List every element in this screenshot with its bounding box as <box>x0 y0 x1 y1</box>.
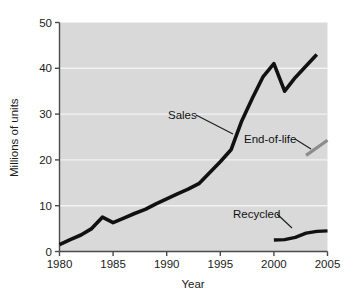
chart-canvas: 01020304050 198019851990199520002005 Sal… <box>0 0 351 295</box>
annotation-label: End-of-life <box>244 133 296 145</box>
x-tick-label: 2000 <box>261 258 287 270</box>
annotation-label: Sales <box>168 109 197 121</box>
x-tick-label: 1980 <box>47 258 73 270</box>
x-axis-title: Year <box>181 278 204 290</box>
y-tick-label: 20 <box>39 154 52 166</box>
y-tick-label: 50 <box>39 17 52 29</box>
y-tick-label: 0 <box>46 246 52 258</box>
y-tick-label: 40 <box>39 62 52 74</box>
y-tick-label: 10 <box>39 200 52 212</box>
x-tick-label: 2005 <box>315 258 341 270</box>
x-tick-label: 1990 <box>154 258 180 270</box>
x-tick-label: 1995 <box>208 258 234 270</box>
chart-figure: 01020304050 198019851990199520002005 Sal… <box>0 0 351 295</box>
x-tick-label: 1985 <box>100 258 126 270</box>
y-axis-title: Millions of units <box>8 98 20 177</box>
annotation-label: Recycled <box>233 208 280 220</box>
y-tick-label: 30 <box>39 108 52 120</box>
